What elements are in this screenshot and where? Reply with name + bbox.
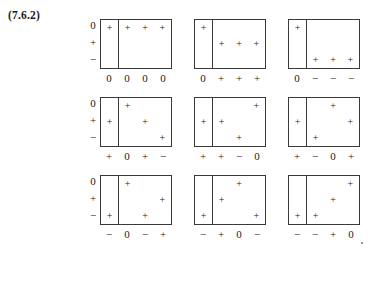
sign-cell bbox=[342, 20, 359, 36]
sign-cell bbox=[248, 52, 265, 68]
right-grid-column: + bbox=[307, 98, 324, 146]
column-labels: ++−0 bbox=[194, 150, 266, 163]
sign-cell bbox=[307, 36, 324, 52]
sign-cell bbox=[248, 20, 265, 36]
column-label: + bbox=[248, 72, 266, 85]
stray-speck bbox=[361, 242, 363, 244]
sign-cell bbox=[213, 176, 230, 192]
column-label: 0 bbox=[154, 72, 172, 85]
right-grid-column: + bbox=[154, 176, 171, 224]
right-grid-column: + bbox=[342, 98, 359, 146]
column-label: + bbox=[342, 150, 360, 163]
column-label: + bbox=[194, 150, 212, 163]
left-column: + bbox=[289, 98, 307, 146]
sign-cell: + bbox=[230, 36, 247, 52]
sign-cell: + bbox=[342, 176, 359, 192]
sign-cell bbox=[342, 98, 359, 114]
sign-cell bbox=[289, 130, 306, 146]
column-labels: 0−−− bbox=[288, 72, 360, 85]
sign-matrix-box: ++++ bbox=[288, 97, 360, 147]
column-label: 0 bbox=[324, 150, 342, 163]
sign-cell bbox=[307, 20, 324, 36]
panel-r1c1: 0+−++++0000 bbox=[86, 19, 180, 85]
column-label: 0 bbox=[118, 72, 136, 85]
right-grid-column: + bbox=[154, 98, 171, 146]
row-axis-label: + bbox=[86, 115, 100, 129]
sign-cell bbox=[119, 114, 136, 130]
right-grid-column: + bbox=[136, 98, 153, 146]
sign-cell: + bbox=[230, 176, 247, 192]
sign-cell bbox=[342, 192, 359, 208]
sign-cell bbox=[154, 36, 171, 52]
sign-cell bbox=[136, 130, 153, 146]
column-label: − bbox=[306, 228, 324, 241]
row-axis-label: − bbox=[86, 54, 100, 68]
column-labels: −−+0 bbox=[288, 228, 360, 241]
column-labels-right: 000 bbox=[118, 72, 172, 85]
sign-cell bbox=[195, 98, 212, 114]
right-grid-column: + bbox=[136, 176, 153, 224]
sign-cell: + bbox=[324, 98, 341, 114]
right-grid: +++ bbox=[213, 176, 265, 224]
sign-cell bbox=[136, 98, 153, 114]
sign-cell: + bbox=[248, 208, 265, 224]
right-grid-column: + bbox=[307, 20, 324, 68]
sign-cell bbox=[248, 114, 265, 130]
right-grid-column: + bbox=[248, 20, 265, 68]
right-grid-column: + bbox=[342, 176, 359, 224]
column-label: + bbox=[212, 150, 230, 163]
sign-cell bbox=[289, 98, 306, 114]
sign-cell bbox=[195, 176, 212, 192]
column-labels-right: −−− bbox=[306, 72, 360, 85]
panel-r3c3: 0+−++++−−+0 bbox=[274, 175, 368, 241]
column-labels: −+0− bbox=[194, 228, 266, 241]
column-label: − bbox=[154, 150, 172, 163]
sign-cell bbox=[324, 208, 341, 224]
sign-cell bbox=[230, 208, 247, 224]
panel-r2c3: 0+−+++++−0+ bbox=[274, 97, 368, 163]
sign-cell bbox=[136, 52, 153, 68]
row-axis-label: + bbox=[86, 193, 100, 207]
sign-cell bbox=[230, 192, 247, 208]
sign-cell bbox=[342, 36, 359, 52]
sign-cell: + bbox=[119, 98, 136, 114]
row-axis-label: − bbox=[86, 132, 100, 146]
row-axis-label: + bbox=[86, 37, 100, 51]
panel-r2c1: 0+−+++++0+− bbox=[86, 97, 180, 163]
sign-cell bbox=[213, 98, 230, 114]
panel-row: 0+−+++++0+−0+−++++++−00+−+++++−0+ bbox=[86, 97, 370, 163]
right-grid-column: + bbox=[213, 176, 230, 224]
left-column: + bbox=[101, 98, 119, 146]
sign-cell: + bbox=[101, 208, 118, 224]
sign-matrix-box: ++++ bbox=[194, 97, 266, 147]
sign-cell bbox=[195, 52, 212, 68]
sign-cell bbox=[195, 192, 212, 208]
sign-cell bbox=[154, 52, 171, 68]
sign-cell: + bbox=[101, 114, 118, 130]
column-labels: 0+++ bbox=[194, 72, 266, 85]
row-axis-label: 0 bbox=[86, 98, 100, 112]
sign-cell bbox=[101, 98, 118, 114]
column-labels: −0−+ bbox=[100, 228, 172, 241]
sign-cell bbox=[213, 208, 230, 224]
sign-cell: + bbox=[119, 20, 136, 36]
right-grid-column: + bbox=[324, 176, 341, 224]
sign-matrix-box: ++++ bbox=[288, 19, 360, 69]
right-grid: +++ bbox=[307, 98, 359, 146]
sign-cell: + bbox=[307, 52, 324, 68]
panel-row: 0+−++++−0−+0+−++++−+0−0+−++++−−+0 bbox=[86, 175, 370, 241]
right-grid-column: + bbox=[119, 20, 136, 68]
right-grid-column: + bbox=[154, 20, 171, 68]
panel-body: ++++0000 bbox=[100, 19, 172, 85]
column-labels-right: +−0 bbox=[212, 150, 266, 163]
sign-matrix-box: ++++ bbox=[194, 19, 266, 69]
row-axis-label: 0 bbox=[86, 20, 100, 34]
sign-cell bbox=[101, 192, 118, 208]
sign-cell: + bbox=[154, 130, 171, 146]
sign-cell bbox=[154, 98, 171, 114]
sign-cell: + bbox=[342, 114, 359, 130]
sign-cell bbox=[101, 176, 118, 192]
sign-cell: + bbox=[195, 20, 212, 36]
row-axis-labels: 0+− bbox=[86, 97, 100, 147]
column-label: + bbox=[100, 150, 118, 163]
